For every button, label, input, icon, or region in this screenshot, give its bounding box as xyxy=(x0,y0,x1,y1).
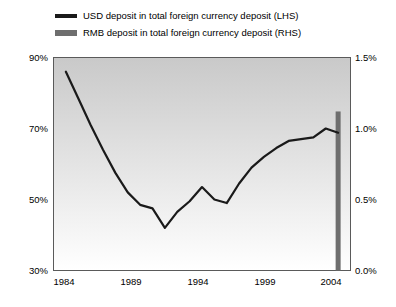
plot-background xyxy=(54,58,351,271)
bar-series-rmb xyxy=(336,111,341,270)
chart-container: USD deposit in total foreign currency de… xyxy=(0,0,396,307)
bar-rmb-5 xyxy=(336,111,341,270)
plot-area xyxy=(0,0,396,307)
